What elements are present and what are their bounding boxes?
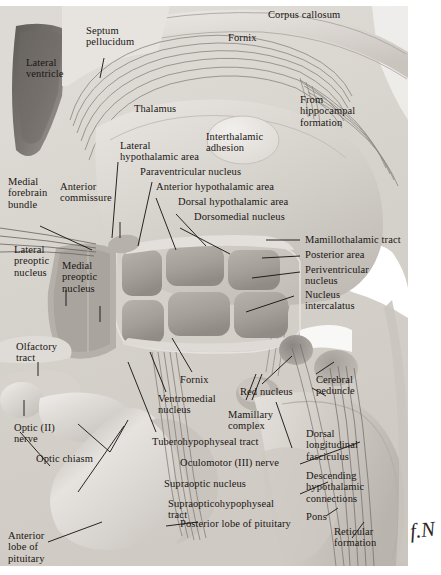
label-dorsal-hypothalamic-area: Dorsal hypothalamic area: [178, 196, 288, 207]
label-anterior-lobe-of-pituitary: Anterior lobe of pituitary: [8, 530, 44, 564]
label-nucleus-intercalatus: Nucleus intercalatus: [305, 289, 355, 312]
label-posterior-lobe-of-pituitary: Posterior lobe of pituitary: [180, 518, 291, 529]
label-pons: Pons: [306, 511, 327, 522]
label-septum-pellucidum: Septum pellucidum: [86, 25, 134, 48]
label-dorsal-longitudinal-fasciculus: Dorsal longitudinal fasciculus: [306, 428, 358, 462]
label-corpus-callosum: Corpus callosum: [268, 9, 340, 20]
label-periventricular-nucleus: Periventricular nucleus: [305, 264, 369, 287]
label-red-nucleus: Red nucleus: [240, 386, 293, 397]
label-lateral-ventricle: Lateral ventricle: [26, 57, 64, 80]
label-cerebral-peduncle: Cerebral peduncle: [316, 374, 355, 397]
label-thalamus: Thalamus: [134, 103, 176, 114]
label-posterior-area: Posterior area: [305, 249, 364, 260]
label-descending-hypothalamic-connections: Descending hypothalamic connections: [306, 470, 364, 504]
label-oculomotor-nerve: Oculomotor (III) nerve: [180, 457, 279, 468]
label-dorsomedial-nucleus: Dorsomedial nucleus: [194, 211, 285, 222]
label-anterior-hypothalamic-area: Anterior hypothalamic area: [156, 181, 274, 192]
figure-canvas: Lateral ventricle Septum pellucidum Forn…: [0, 0, 441, 575]
label-mamillary-complex: Mamillary complex: [228, 409, 273, 432]
label-medial-preoptic-nucleus: Medial preoptic nucleus: [62, 260, 97, 294]
label-ventromedial-nucleus: Ventromedial nucleus: [158, 393, 216, 416]
label-tuberohypophyseal-tract: Tuberohypophyseal tract: [152, 436, 259, 447]
label-reticular-formation: Reticular formation: [334, 526, 376, 549]
label-optic-nerve: Optic (II) nerve: [14, 422, 55, 445]
label-from-hippocampal-formation: From hippocampal formation: [300, 94, 355, 128]
label-medial-forebrain-bundle: Medial forebrain bundle: [8, 176, 47, 210]
label-mamillothalamic-tract: Mamillothalamic tract: [305, 234, 401, 245]
label-paraventricular-nucleus: Paraventricular nucleus: [140, 166, 241, 177]
label-lateral-hypothalamic-area: Lateral hypothalamic area: [120, 140, 199, 163]
label-anterior-commissure: Anterior commissure: [60, 181, 112, 204]
label-interthalamic-adhesion: Interthalamic adhesion: [206, 131, 263, 154]
label-supraoptic-nucleus: Supraoptic nucleus: [164, 478, 246, 489]
label-olfactory-tract: Olfactory tract: [16, 341, 57, 364]
artist-signature: f.N: [409, 517, 437, 544]
label-fornix-lower: Fornix: [180, 374, 209, 385]
label-lateral-preoptic-nucleus: Lateral preoptic nucleus: [14, 244, 49, 278]
label-fornix-top: Fornix: [228, 32, 257, 43]
label-optic-chiasm: Optic chiasm: [36, 453, 93, 464]
